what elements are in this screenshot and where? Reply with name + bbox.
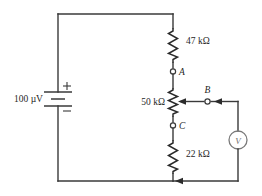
voltmeter-label: V [235,136,242,146]
terminal-b-label: B [205,85,211,95]
potentiometer-50k-symbol [169,88,178,117]
wiper-arrowhead [178,98,186,105]
terminal-b-node[interactable] [205,99,210,104]
current-arrowhead-upper [214,98,222,105]
battery-plus-sign [63,82,71,90]
resistor-22k-symbol [169,140,178,174]
circuit-diagram: 100 µV 47 kΩ A 50 kΩ B C [0,0,262,196]
circuit-schematic-canvas: 100 µV 47 kΩ A 50 kΩ B C [0,0,262,196]
source-label: 100 µV [14,94,43,104]
current-arrowhead-bottom [175,178,183,185]
potentiometer-50k-label: 50 kΩ [141,97,165,107]
resistor-22k-label: 22 kΩ [186,149,210,159]
terminal-a-label: A [178,67,185,77]
resistor-47k-label: 47 kΩ [186,36,210,46]
terminal-c-label: C [179,121,186,131]
resistor-47k-symbol [169,28,178,63]
